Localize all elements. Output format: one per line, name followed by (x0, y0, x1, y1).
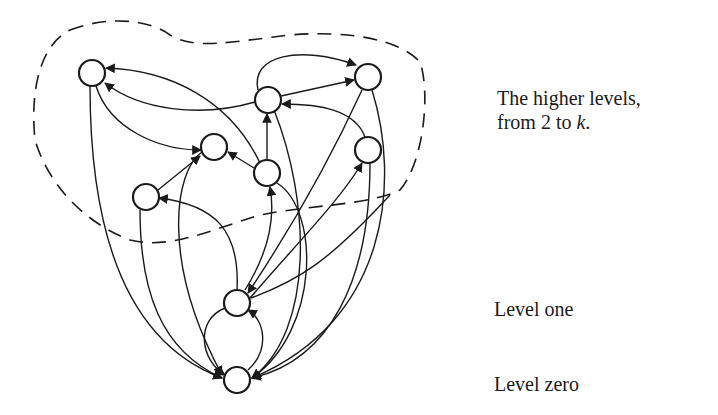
higher-levels-line1: The higher levels, (497, 86, 641, 110)
node-F (254, 160, 280, 186)
level-graph-diagram (0, 0, 718, 415)
node-level-one (224, 290, 250, 316)
node-A (79, 60, 105, 86)
node-C (255, 87, 281, 113)
level-zero-label: Level zero (494, 372, 579, 396)
variable-k: k (576, 111, 585, 133)
node-E (355, 137, 381, 163)
node-level-zero (224, 367, 250, 393)
node-D (201, 134, 227, 160)
higher-levels-suffix: . (585, 111, 590, 133)
node-G (133, 184, 159, 210)
higher-levels-boundary (34, 21, 425, 243)
higher-levels-prefix: from 2 to (497, 111, 576, 133)
higher-levels-label: The higher levels, from 2 to k. (497, 86, 641, 134)
level-one-label: Level one (494, 297, 573, 321)
higher-levels-line2: from 2 to k. (497, 110, 641, 134)
node-B (355, 64, 381, 90)
